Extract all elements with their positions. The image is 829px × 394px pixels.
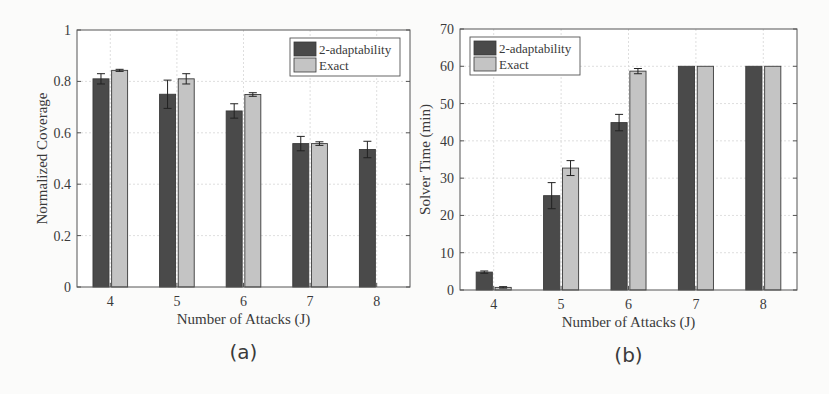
bar — [611, 123, 627, 290]
x-tick-label: 8 — [373, 294, 380, 309]
y-tick-label: 0 — [447, 283, 454, 298]
chart-b-panel-label: (b) — [614, 343, 642, 367]
bar — [160, 94, 176, 287]
y-tick-label: 10 — [440, 246, 454, 261]
x-tick-label: 4 — [490, 297, 497, 312]
legend-label: Exact — [499, 57, 529, 72]
y-tick-label: 0.2 — [54, 229, 72, 244]
y-tick-label: 40 — [440, 134, 454, 149]
chart-a-legend: 2-adaptabilityExact — [290, 38, 400, 76]
chart-a-normalized-coverage: 00.20.40.60.8145678Number of Attacks (J)… — [0, 0, 415, 394]
y-tick-label: 0 — [64, 280, 71, 295]
chart-a-panel-label: (a) — [230, 340, 258, 364]
chart-a-x-axis-label: Number of Attacks (J) — [177, 311, 311, 328]
legend-swatch — [474, 57, 496, 71]
legend-label: Exact — [319, 58, 349, 73]
y-tick-label: 70 — [440, 22, 454, 37]
bar — [746, 66, 762, 290]
bar — [630, 71, 646, 290]
legend-label: 2-adaptability — [319, 42, 392, 57]
y-tick-label: 20 — [440, 208, 454, 223]
x-tick-label: 5 — [558, 297, 565, 312]
x-tick-label: 6 — [240, 294, 247, 309]
x-tick-label: 4 — [107, 294, 114, 309]
bar — [544, 196, 560, 290]
bar — [178, 79, 194, 287]
x-tick-label: 7 — [307, 294, 314, 309]
chart-a-y-axis-label: Normalized Coverage — [34, 92, 50, 224]
y-tick-label: 0.8 — [54, 74, 72, 89]
y-tick-label: 60 — [440, 59, 454, 74]
x-tick-label: 5 — [173, 294, 180, 309]
bar — [293, 144, 309, 287]
y-tick-label: 1 — [64, 23, 71, 38]
legend-label: 2-adaptability — [499, 41, 572, 56]
x-tick-label: 6 — [625, 297, 632, 312]
bar — [93, 79, 109, 287]
bar — [359, 150, 375, 287]
bar — [697, 66, 713, 290]
x-tick-label: 7 — [692, 297, 699, 312]
bar — [562, 168, 578, 290]
bar — [678, 66, 694, 290]
x-tick-label: 8 — [760, 297, 767, 312]
bar — [226, 111, 242, 287]
legend-swatch — [474, 41, 496, 55]
bar — [245, 95, 261, 287]
bar — [765, 66, 781, 290]
legend-swatch — [294, 42, 316, 56]
chart-b-x-axis-label: Number of Attacks (J) — [562, 314, 696, 331]
chart-b-y-axis-label: Solver Time (min) — [417, 104, 434, 215]
y-tick-label: 30 — [440, 171, 454, 186]
bar — [476, 272, 492, 290]
bar — [112, 70, 128, 287]
y-tick-label: 0.6 — [54, 126, 72, 141]
legend-swatch — [294, 58, 316, 72]
y-tick-label: 0.4 — [54, 177, 72, 192]
y-tick-label: 50 — [440, 97, 454, 112]
bar — [311, 144, 327, 287]
chart-b-solver-time: 01020304050607045678Number of Attacks (J… — [410, 0, 824, 394]
chart-b-legend: 2-adaptabilityExact — [470, 37, 580, 75]
